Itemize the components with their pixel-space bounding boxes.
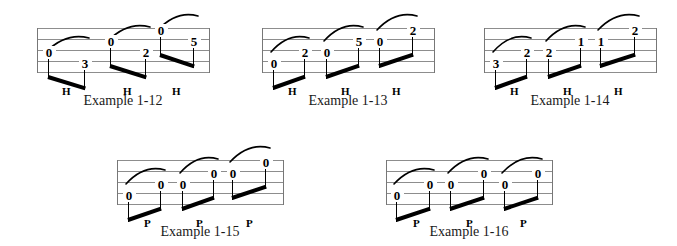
barline-start	[37, 28, 38, 73]
fret-number: 3	[490, 57, 503, 70]
fret-number: 0	[445, 178, 458, 191]
fret-number: 0	[227, 167, 240, 180]
fret-number: 2	[629, 24, 642, 37]
fret-number: 5	[188, 35, 201, 48]
technique-marker: H	[123, 86, 132, 97]
fret-number: 0	[499, 178, 512, 191]
fret-number: 0	[268, 57, 281, 70]
technique-marker: P	[144, 218, 151, 229]
technique-marker: P	[466, 218, 473, 229]
technique-marker: H	[172, 86, 181, 97]
fret-number: 2	[521, 46, 534, 59]
barline-start	[484, 28, 485, 73]
fret-number: 0	[478, 167, 491, 180]
fret-number: 0	[321, 46, 334, 59]
fret-number: 0	[208, 167, 221, 180]
fret-number: 2	[299, 46, 312, 59]
staff-line	[386, 193, 552, 194]
fret-number: 0	[260, 156, 273, 169]
barline-start	[386, 160, 387, 205]
technique-marker: P	[196, 218, 203, 229]
barline-end	[552, 160, 553, 205]
fret-number: 5	[353, 35, 366, 48]
barline-start	[262, 28, 263, 73]
fret-number: 0	[123, 189, 136, 202]
tablature-sheet: 030205HHHExample 1-12020502HHHExample 1-…	[0, 0, 677, 246]
barline-start	[117, 160, 118, 205]
staff-line	[484, 61, 656, 62]
fret-number: 0	[155, 24, 168, 37]
fret-number: 3	[79, 57, 92, 70]
technique-marker: H	[341, 86, 350, 97]
fret-number: 0	[155, 178, 168, 191]
technique-marker: H	[62, 86, 71, 97]
fret-number: 0	[105, 35, 118, 48]
fret-number: 0	[177, 178, 190, 191]
barline-end	[434, 28, 435, 73]
staff-line	[117, 193, 283, 194]
technique-marker: P	[246, 218, 253, 229]
fret-number: 0	[391, 189, 404, 202]
barline-end	[283, 160, 284, 205]
fret-number: 0	[374, 35, 387, 48]
fret-number: 1	[595, 35, 608, 48]
technique-marker: H	[614, 86, 623, 97]
staff-line	[262, 61, 434, 62]
technique-marker: P	[413, 218, 420, 229]
staff-line	[484, 72, 656, 73]
fret-number: 2	[140, 46, 153, 59]
technique-marker: H	[392, 86, 401, 97]
technique-marker: H	[510, 86, 519, 97]
fret-number: 0	[532, 167, 545, 180]
fret-number: 1	[575, 35, 588, 48]
fret-number: 0	[424, 178, 437, 191]
barline-end	[209, 28, 210, 73]
fret-number: 2	[543, 46, 556, 59]
technique-marker: P	[520, 218, 527, 229]
fret-number: 0	[43, 46, 56, 59]
technique-marker: H	[288, 86, 297, 97]
staff-line	[262, 72, 434, 73]
technique-marker: H	[563, 86, 572, 97]
barline-end	[656, 28, 657, 73]
fret-number: 2	[407, 24, 420, 37]
